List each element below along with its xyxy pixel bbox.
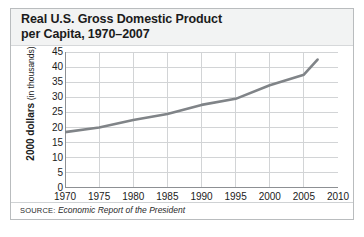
y-tick-label: 25 — [35, 107, 63, 117]
x-tick-label: 1975 — [88, 191, 110, 202]
x-tick-label: 2000 — [259, 191, 281, 202]
x-tick-label: 1985 — [156, 191, 178, 202]
chart-figure: Real U.S. Gross Domestic Product per Cap… — [10, 8, 354, 220]
y-tick-label: 20 — [35, 123, 63, 133]
y-tick-label: 40 — [35, 62, 63, 72]
x-tick-label: 2005 — [293, 191, 315, 202]
x-tick-label: 1980 — [122, 191, 144, 202]
y-tick-label: 5 — [35, 168, 63, 178]
y-axis-label: 2000 dollars (in thousands) — [25, 39, 36, 169]
x-tick-label: 1990 — [190, 191, 212, 202]
y-axis-label-main: 2000 dollars — [25, 103, 36, 161]
x-tick-label: 1995 — [225, 191, 247, 202]
source-note: SOURCE: Economic Report of the President — [20, 205, 185, 215]
source-value: Economic Report of the President — [58, 205, 185, 215]
title-band: Real U.S. Gross Domestic Product per Cap… — [11, 9, 353, 46]
y-tick-label: 35 — [35, 77, 63, 87]
y-axis-ticks: 051015202530354045 — [35, 46, 63, 194]
source-label: SOURCE: — [20, 206, 56, 215]
y-tick-label: 15 — [35, 138, 63, 148]
y-tick-label: 45 — [35, 47, 63, 57]
source-bar: SOURCE: Economic Report of the President — [11, 202, 353, 219]
x-tick-label: 1970 — [54, 191, 76, 202]
plot-axes — [65, 52, 338, 188]
y-tick-label: 10 — [35, 153, 63, 163]
x-tick-label: 2010 — [327, 191, 349, 202]
y-tick-label: 30 — [35, 92, 63, 102]
plot-region: 2000 dollars (in thousands) 051015202530… — [11, 46, 355, 204]
data-series — [65, 60, 318, 133]
page-title: Real U.S. Gross Domestic Product per Cap… — [21, 12, 222, 42]
y-axis-label-units: (in thousands) — [26, 46, 36, 100]
